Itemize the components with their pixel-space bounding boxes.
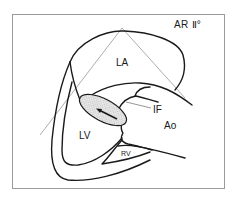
label-right-ventricle: RV: [121, 150, 131, 157]
label-aorta: Ao: [164, 121, 176, 131]
figure-title: AR Ⅱ°: [174, 20, 201, 30]
label-left-ventricle: LV: [79, 131, 91, 141]
label-left-atrium: LA: [116, 58, 128, 68]
if-leader-line: [126, 102, 151, 108]
heart-drawing: [0, 0, 235, 201]
regurgitant-jet: [75, 88, 131, 132]
aorta-outline: [118, 96, 158, 110]
label-if: IF: [153, 105, 162, 115]
echo-diagram: AR Ⅱ° LA IF Ao LV RV: [0, 0, 235, 201]
